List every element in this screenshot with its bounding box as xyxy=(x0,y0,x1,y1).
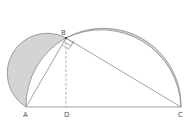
label-c: C xyxy=(178,111,183,119)
segment-bc xyxy=(66,38,181,107)
lune-bc xyxy=(66,28,181,107)
label-d: D xyxy=(64,111,69,119)
lune-ab xyxy=(7,33,66,107)
point-b xyxy=(65,37,67,39)
label-a: A xyxy=(23,111,28,119)
lune-diagram: A B C D xyxy=(0,0,194,122)
label-b: B xyxy=(61,29,66,37)
